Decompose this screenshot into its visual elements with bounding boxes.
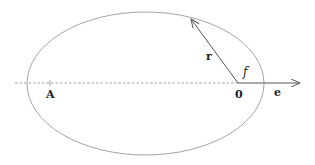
radius-vector-arrow [191,19,238,83]
label-radius-vector: r [206,50,212,63]
orbit-ellipse [27,12,264,155]
orbit-diagram: A 0 r e f [0,0,315,165]
label-eccentricity-vector: e [274,86,281,99]
label-point-a: A [45,88,55,101]
label-true-anomaly: f [242,65,250,79]
diagram-canvas: A 0 r e f [0,0,315,165]
label-focus: 0 [235,88,243,101]
